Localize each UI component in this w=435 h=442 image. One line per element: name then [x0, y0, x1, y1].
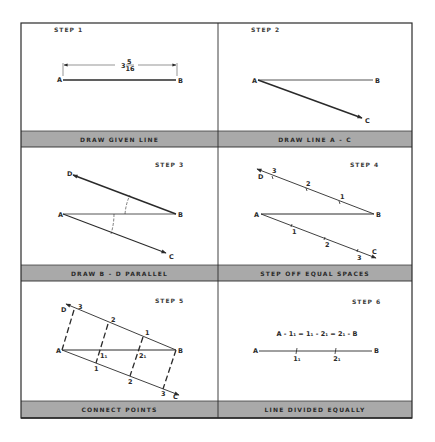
- line-ac-arrow: [63, 214, 166, 253]
- panel-step-5: STEP 5 3 2 1 1 2 3 1₁ 2₁ D A B C CONNECT…: [56, 297, 184, 413]
- line-ac-arrow: [62, 350, 179, 395]
- point-b: B: [375, 77, 380, 85]
- point-b: B: [376, 211, 381, 219]
- panel-step-1: STEP 1 3 5 16 A B DRAW GIVEN LINE: [54, 26, 183, 143]
- dimension-line: [63, 63, 177, 76]
- tick-mark: [296, 348, 297, 354]
- line-bd-arrow: [257, 169, 374, 214]
- point-a: A: [58, 211, 63, 219]
- point-a: A: [253, 347, 258, 355]
- point-d: D: [258, 173, 264, 181]
- mark-upper-3: 3: [78, 303, 83, 311]
- panel-step-4: STEP 4 3 2 1 1 2 3 D A B C STEP OFF EQUA…: [254, 161, 381, 277]
- panel-step-2: STEP 2 A B C DRAW LINE A - C: [251, 26, 380, 143]
- caption: DRAW B - D PARALLEL: [71, 270, 168, 277]
- point-a: A: [252, 77, 257, 85]
- point-c: C: [365, 117, 370, 125]
- point-c: C: [372, 248, 377, 256]
- caption: DRAW LINE A - C: [278, 136, 352, 143]
- step-label: STEP 6: [352, 298, 381, 305]
- caption: LINE DIVIDED EQUALLY: [264, 406, 365, 413]
- equal-parts-equation: A - 1₁ = 1₁ - 2₁ = 2₁ - B: [276, 330, 357, 338]
- caption: STEP OFF EQUAL SPACES: [260, 270, 370, 277]
- caption: DRAW GIVEN LINE: [80, 136, 159, 143]
- tick-mark: [335, 348, 336, 354]
- mark-upper-2: 2: [306, 180, 311, 188]
- intersection-2: 2₁: [139, 352, 147, 360]
- point-b: B: [178, 347, 183, 355]
- panel-step-3: STEP 3 D A B C DRAW B - D PARALLEL: [58, 161, 184, 277]
- division-2: 2₁: [333, 355, 341, 363]
- mark-upper-1: 1: [340, 193, 345, 201]
- step-label: STEP 2: [251, 26, 280, 33]
- mark-lower-1: 1: [94, 365, 99, 373]
- point-d: D: [67, 170, 73, 178]
- intersection-1: 1₁: [100, 352, 108, 360]
- division-1: 1₁: [293, 355, 301, 363]
- construction-arc-upper: [125, 195, 130, 214]
- step-label: STEP 4: [350, 161, 379, 168]
- dimension-denominator: 16: [126, 65, 136, 73]
- line-bd-arrow: [73, 175, 176, 214]
- point-c: C: [169, 253, 174, 261]
- point-a: A: [57, 76, 62, 84]
- mark-lower-2: 2: [325, 241, 330, 249]
- mark-lower-3: 3: [161, 390, 166, 398]
- point-c: C: [173, 393, 178, 401]
- step-label: STEP 1: [54, 26, 83, 33]
- step-diagram: STEP 1 3 5 16 A B DRAW GIVEN LINE STEP 2…: [0, 0, 435, 442]
- mark-upper-2: 2: [111, 316, 116, 324]
- point-b: B: [178, 77, 183, 85]
- line-ac-arrow: [258, 80, 362, 118]
- caption: CONNECT POINTS: [81, 406, 157, 413]
- point-d: D: [61, 306, 67, 314]
- point-b: B: [374, 347, 379, 355]
- mark-upper-1: 1: [145, 329, 150, 337]
- construction-arc-lower: [111, 214, 114, 234]
- point-a: A: [254, 211, 259, 219]
- mark-lower-2: 2: [128, 378, 133, 386]
- point-b: B: [178, 211, 183, 219]
- point-a: A: [56, 347, 61, 355]
- line-ac-arrow: [261, 214, 376, 258]
- mark-upper-3: 3: [272, 167, 277, 175]
- panel-step-6: STEP 6 A - 1₁ = 1₁ - 2₁ = 2₁ - B A B 1₁ …: [253, 298, 381, 413]
- step-label: STEP 3: [155, 161, 184, 168]
- step-label: STEP 5: [155, 297, 184, 304]
- mark-lower-3: 3: [357, 254, 362, 262]
- mark-lower-1: 1: [292, 228, 297, 236]
